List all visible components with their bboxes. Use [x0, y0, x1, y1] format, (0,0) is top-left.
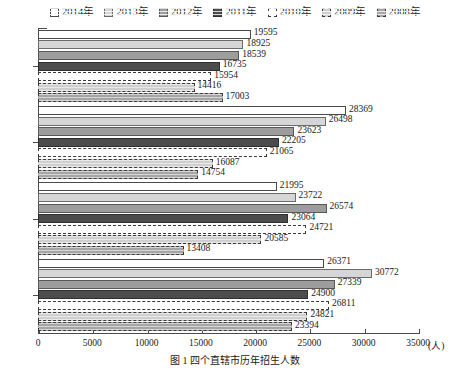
x-axis-tick: [419, 329, 420, 334]
bar-group-重庆: 重庆19595189251853916735159541441617003: [38, 30, 418, 103]
bar-value-label: 18925: [243, 38, 270, 48]
bar-value-label: 14416: [195, 80, 222, 90]
bar-北京-2012[interactable]: [38, 280, 335, 289]
bar-value-label: 16735: [220, 59, 247, 69]
x-axis-tick-label: 0: [36, 338, 41, 348]
bar-上海-2014[interactable]: [38, 106, 346, 115]
bar-group-天津: 天津21995237222657423064247212058513408: [38, 182, 418, 255]
bar-重庆-2013[interactable]: [38, 40, 243, 49]
bar-天津-2011[interactable]: [38, 214, 288, 223]
bar-value-label: 27339: [335, 277, 362, 287]
bar-北京-2009[interactable]: [38, 312, 307, 321]
bar-value-label: 26811: [329, 298, 355, 308]
bar-value-label: 17003: [223, 91, 250, 101]
bar-value-label: 24821: [307, 309, 334, 319]
bar-row: 24900: [38, 290, 418, 299]
legend-swatch-icon: [104, 8, 113, 17]
bar-row: 26371: [38, 259, 418, 268]
x-axis-tick-label: 35000: [406, 338, 430, 348]
legend-item-2008[interactable]: 2008年: [377, 7, 421, 18]
bar-value-label: 16087: [213, 157, 240, 167]
bar-北京-2011[interactable]: [38, 290, 308, 299]
bar-重庆-2011[interactable]: [38, 62, 220, 71]
bar-value-label: 26371: [324, 256, 351, 266]
figure-caption: 图 1 四个直辖市历年招生人数: [0, 352, 470, 367]
bar-北京-2013[interactable]: [38, 269, 372, 278]
bar-天津-2014[interactable]: [38, 182, 277, 191]
x-axis-tick-label: 15000: [189, 338, 213, 348]
bar-北京-2008[interactable]: [38, 322, 292, 331]
bar-上海-2009[interactable]: [38, 159, 213, 168]
legend-item-2011[interactable]: 2011年: [213, 7, 256, 18]
x-axis-tick-label: 10000: [135, 338, 159, 348]
bar-row: 23064: [38, 214, 418, 223]
bar-value-label: 23394: [292, 320, 319, 330]
bar-value-label: 23623: [294, 125, 321, 135]
bar-row: 22205: [38, 138, 418, 147]
bar-value-label: 26498: [326, 114, 353, 124]
bar-上海-2008[interactable]: [38, 170, 198, 179]
bar-group-上海: 上海28369264982362322205210651608714754: [38, 106, 418, 179]
legend-item-label: 2012年: [171, 7, 203, 18]
x-axis-tick-label: 30000: [352, 338, 376, 348]
bar-上海-2013[interactable]: [38, 117, 326, 126]
bar-value-label: 18539: [239, 49, 266, 59]
bar-天津-2013[interactable]: [38, 193, 296, 202]
bar-row: 26498: [38, 117, 418, 126]
bar-value-label: 23064: [288, 212, 315, 222]
bar-row: 24821: [38, 312, 418, 321]
bar-row: 27339: [38, 280, 418, 289]
legend-item-2012[interactable]: 2012年: [159, 7, 203, 18]
legend-swatch-icon: [159, 8, 168, 17]
legend-item-2009[interactable]: 2009年: [322, 7, 366, 18]
bar-row: 16087: [38, 159, 418, 168]
bar-重庆-2014[interactable]: [38, 30, 251, 39]
bar-row: 28369: [38, 106, 418, 115]
legend-swatch-icon: [268, 8, 277, 17]
bar-row: 13408: [38, 246, 418, 255]
bar-重庆-2010[interactable]: [38, 72, 211, 81]
legend-item-label: 2011年: [225, 7, 256, 18]
bar-group-北京: 北京26371307722733924900268112482123394: [38, 259, 418, 332]
bar-row: 23623: [38, 127, 418, 136]
x-axis-tick-label: 25000: [298, 338, 322, 348]
legend-item-2014[interactable]: 2014年: [50, 7, 94, 18]
legend-item-label: 2008年: [389, 7, 421, 18]
bar-value-label: 24900: [308, 288, 335, 298]
bar-value-label: 21065: [267, 146, 294, 156]
legend-item-label: 2009年: [334, 7, 366, 18]
legend-item-label: 2014年: [62, 7, 94, 18]
bar-value-label: 30772: [372, 267, 399, 277]
bar-天津-2012[interactable]: [38, 204, 327, 213]
bar-上海-2012[interactable]: [38, 127, 294, 136]
bar-value-label: 26574: [327, 201, 354, 211]
bar-row: 23394: [38, 322, 418, 331]
bar-value-label: 28369: [346, 104, 373, 114]
legend-swatch-icon: [213, 8, 222, 17]
bar-北京-2014[interactable]: [38, 259, 324, 268]
bar-row: 17003: [38, 93, 418, 102]
bar-value-label: 20585: [261, 233, 288, 243]
bar-value-label: 21995: [277, 180, 304, 190]
bar-重庆-2009[interactable]: [38, 83, 195, 92]
legend-item-2010[interactable]: 2010年: [268, 7, 312, 18]
bar-天津-2009[interactable]: [38, 235, 261, 244]
bar-value-label: 23722: [296, 190, 323, 200]
x-axis-tick-label: 20000: [243, 338, 267, 348]
bar-value-label: 15954: [211, 70, 238, 80]
legend-item-2013[interactable]: 2013年: [104, 7, 148, 18]
bar-row: 19595: [38, 30, 418, 39]
bar-row: 18925: [38, 40, 418, 49]
bar-row: 24721: [38, 225, 418, 234]
bar-重庆-2012[interactable]: [38, 51, 239, 60]
x-axis-unit-label: (人): [428, 338, 444, 352]
bar-上海-2011[interactable]: [38, 138, 279, 147]
bar-row: 26811: [38, 301, 418, 310]
legend-item-label: 2010年: [280, 7, 312, 18]
bar-value-label: 14754: [198, 167, 225, 177]
bar-北京-2010[interactable]: [38, 301, 329, 310]
bar-天津-2008[interactable]: [38, 246, 184, 255]
bar-value-label: 19595: [251, 27, 278, 37]
legend-item-label: 2013年: [116, 7, 148, 18]
bar-重庆-2008[interactable]: [38, 93, 223, 102]
